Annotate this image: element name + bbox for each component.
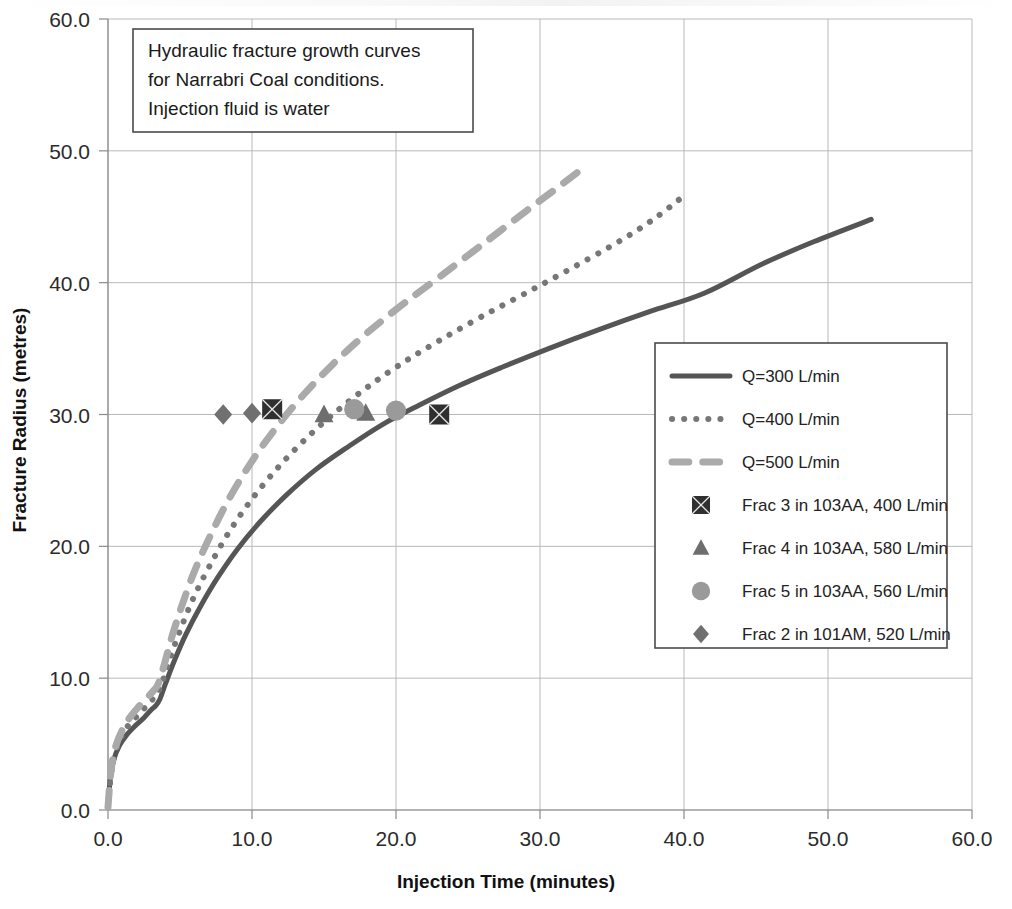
y-tick-label: 40.0	[49, 272, 90, 295]
data-point-marker	[214, 404, 232, 425]
x-tick-label: 30.0	[520, 827, 561, 850]
y-axis-title: Fracture Radius (metres)	[9, 308, 30, 533]
x-tick-label: 50.0	[808, 827, 849, 850]
data-point-marker	[386, 400, 406, 420]
annotation-line-1: Hydraulic fracture growth curves	[148, 40, 420, 61]
y-tick-label: 10.0	[49, 667, 90, 690]
x-tick-labels: 0.010.020.030.040.050.060.0	[93, 827, 992, 850]
annotation-line-3: Injection fluid is water	[148, 98, 330, 119]
x-tick-label: 0.0	[93, 827, 122, 850]
y-tick-label: 30.0	[49, 404, 90, 427]
data-point-marker	[243, 403, 261, 424]
y-tick-label: 60.0	[49, 8, 90, 31]
x-tick-label: 40.0	[664, 827, 705, 850]
fracture-growth-chart: 0.010.020.030.040.050.060.0 0.010.020.03…	[0, 0, 1012, 909]
data-point-marker	[344, 399, 364, 419]
data-point-marker	[315, 405, 334, 423]
x-axis-title: Injection Time (minutes)	[397, 871, 615, 892]
marker-circle	[692, 582, 710, 600]
marker-triangle	[315, 405, 334, 423]
marker-circle	[344, 399, 364, 419]
y-tick-label: 50.0	[49, 140, 90, 163]
legend-marker-swatch	[692, 496, 710, 514]
x-tick-label: 60.0	[952, 827, 993, 850]
legend-marker-swatch	[692, 582, 710, 600]
marker-diamond	[243, 403, 261, 424]
legend-label: Q=500 L/min	[742, 453, 840, 472]
marker-circle	[386, 400, 406, 420]
y-tick-labels: 0.010.020.030.040.050.060.0	[49, 8, 90, 822]
legend-label: Frac 5 in 103AA, 560 L/min	[742, 582, 948, 601]
legend-label: Q=300 L/min	[742, 367, 840, 386]
chart-container: 0.010.020.030.040.050.060.0 0.010.020.03…	[0, 0, 1012, 909]
x-tick-label: 20.0	[376, 827, 417, 850]
y-tick-label: 0.0	[61, 799, 90, 822]
data-point-markers	[214, 399, 449, 425]
legend-label: Frac 4 in 103AA, 580 L/min	[742, 539, 948, 558]
annotation-line-2: for Narrabri Coal conditions.	[148, 69, 385, 90]
data-point-marker	[429, 405, 449, 425]
y-tick-label: 20.0	[49, 535, 90, 558]
legend-label: Frac 2 in 101AM, 520 L/min	[742, 625, 951, 644]
legend-label: Q=400 L/min	[742, 410, 840, 429]
x-tick-label: 10.0	[232, 827, 273, 850]
marker-diamond	[214, 404, 232, 425]
chart-legend: Q=300 L/minQ=400 L/minQ=500 L/minFrac 3 …	[655, 343, 951, 648]
annotation-callout: Hydraulic fracture growth curves for Nar…	[133, 29, 473, 132]
series-curve	[108, 168, 583, 807]
legend-label: Frac 3 in 103AA, 400 L/min	[742, 496, 948, 515]
data-point-marker	[262, 399, 282, 419]
